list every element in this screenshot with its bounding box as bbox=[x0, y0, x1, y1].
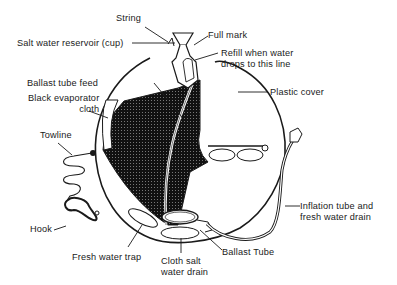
label-ballast-tube-feed: Ballast tube feed bbox=[27, 78, 98, 89]
label-full-mark: Full mark bbox=[208, 30, 247, 41]
label-salt-water-reservoir: Salt water reservoir (cup) bbox=[17, 38, 124, 49]
leader-towline bbox=[58, 143, 72, 155]
ballast-floats bbox=[208, 145, 268, 161]
label-ballast-tube: Ballast Tube bbox=[222, 247, 274, 258]
leader-hook bbox=[54, 226, 66, 230]
salt-water-reservoir-cup bbox=[168, 33, 198, 88]
solar-still-diagram: String Salt water reservoir (cup) Full m… bbox=[0, 0, 397, 285]
label-string: String bbox=[116, 13, 141, 24]
black-evaporator-cloth bbox=[103, 80, 208, 225]
label-towline: Towline bbox=[40, 130, 72, 141]
leader-full-mark bbox=[194, 36, 208, 45]
towline bbox=[64, 150, 97, 202]
label-fresh-water-trap: Fresh water trap bbox=[72, 252, 141, 263]
leader-fresh-water-trap bbox=[128, 225, 142, 247]
leader-string bbox=[145, 27, 168, 42]
label-hook: Hook bbox=[30, 224, 52, 235]
label-cloth-salt-water-drain: Cloth salt water drain bbox=[161, 256, 208, 277]
label-black-evaporator-cloth: Black evaporator cloth bbox=[28, 93, 99, 114]
label-plastic-cover: Plastic cover bbox=[270, 87, 324, 98]
leader-refill bbox=[195, 53, 218, 60]
inflation-tube bbox=[207, 128, 302, 239]
label-inflation-tube: Inflation tube and fresh water drain bbox=[300, 201, 373, 222]
hook bbox=[65, 198, 99, 220]
label-refill-line: Refill when water drops to this line bbox=[221, 48, 294, 69]
